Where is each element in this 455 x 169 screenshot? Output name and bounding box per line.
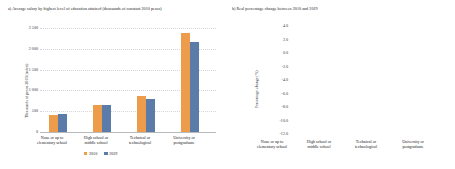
- panel-b-ytick-5: -6.0: [258, 92, 288, 96]
- panel-b-category-university: University orpostgraduate: [387, 139, 439, 149]
- panel-average-salary: a) Average salary by highest level of ed…: [0, 0, 228, 169]
- panel-b-ytick-8: -12.0: [258, 132, 288, 136]
- panel-a-ytick-0: 2 500: [14, 26, 38, 30]
- panel-b-ytick-1: 2.0: [258, 38, 288, 42]
- panel-b-ytick-7: -10.0: [258, 119, 288, 123]
- panel-b-title: b) Real percentage change between 2010 a…: [232, 6, 318, 12]
- panel-a-legend: 2010 2019: [84, 151, 117, 156]
- legend-item-2019: 2019: [104, 151, 117, 156]
- bar-2019-technical: [146, 99, 155, 132]
- panel-b-ytick-3: -2.0: [258, 65, 288, 69]
- panel-a-x-axis: [40, 132, 216, 133]
- bar-2019-university: [190, 42, 199, 132]
- panel-a-ytick-3: 1 000: [14, 88, 38, 92]
- panel-b-ytick-2: 0.0: [258, 51, 288, 55]
- legend-label-2019: 2019: [109, 151, 117, 156]
- panel-a-title: a) Average salary by highest level of ed…: [8, 6, 162, 12]
- panel-b-category-highschool: High school ormiddle school: [293, 139, 345, 149]
- bar-2019-highschool: [102, 105, 111, 132]
- panel-a-ytick-5: 0: [14, 130, 38, 134]
- panel-a-ytick-1: 2 000: [14, 47, 38, 51]
- panel-a-plot-area: [40, 28, 216, 132]
- gridline: [40, 28, 216, 29]
- panel-b-category-technical: Technical ortechnological: [340, 139, 392, 149]
- panel-a-category-university: University orpostgraduate: [158, 135, 210, 145]
- legend-label-2010: 2010: [89, 151, 97, 156]
- panel-a-ytick-2: 1 500: [14, 68, 38, 72]
- legend-swatch-icon-2019: [104, 152, 107, 155]
- legend-item-2010: 2010: [84, 151, 97, 156]
- bar-2019-elementary: [58, 114, 67, 132]
- bar-2010-highschool: [93, 105, 102, 132]
- bar-2010-university: [181, 33, 190, 132]
- panel-b-category-elementary: None or up toelementary school: [246, 139, 298, 149]
- panel-b-ytick-6: -8.0: [258, 105, 288, 109]
- panel-b-y-axis-title: Percentage change (%): [254, 70, 259, 108]
- panel-b-ytick-0: 4.0: [258, 24, 288, 28]
- panel-percentage-change: b) Real percentage change between 2010 a…: [228, 0, 455, 169]
- panel-b-ytick-4: -4.0: [258, 78, 288, 82]
- bar-2010-technical: [137, 96, 146, 132]
- panel-a-ytick-4: 500: [14, 109, 38, 113]
- bar-2010-elementary: [49, 115, 58, 133]
- legend-swatch-icon-2010: [84, 152, 87, 155]
